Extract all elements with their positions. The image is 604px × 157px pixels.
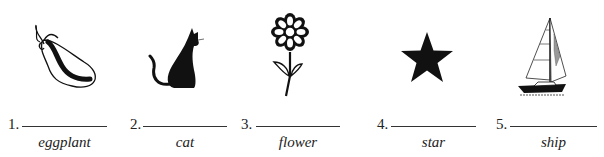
answer-blank[interactable] xyxy=(256,126,340,127)
item-number: 4. xyxy=(377,116,388,132)
flower-icon xyxy=(268,12,312,98)
cat-icon xyxy=(148,26,204,90)
answer-blank[interactable] xyxy=(391,126,476,127)
item-label: star xyxy=(391,134,476,150)
answer-blank[interactable] xyxy=(510,126,597,127)
item-number: 3. xyxy=(241,116,252,132)
item-label: ship xyxy=(510,134,597,150)
answer-blank[interactable] xyxy=(22,126,107,127)
answer-blank[interactable] xyxy=(143,126,227,127)
item-number: 5. xyxy=(496,116,507,132)
item-label: flower xyxy=(256,134,340,150)
item-label: cat xyxy=(143,134,227,150)
eggplant-icon xyxy=(14,22,100,90)
item-number: 2. xyxy=(130,116,141,132)
item-label: eggplant xyxy=(22,134,107,150)
star-icon xyxy=(399,30,455,84)
item-number: 1. xyxy=(8,116,19,132)
sailboat-icon xyxy=(516,16,568,98)
